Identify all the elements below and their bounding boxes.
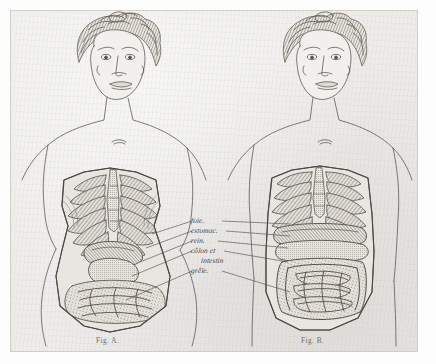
engraving-plate: foie. estomac. rein. côlon et intestin g… (0, 0, 436, 364)
label-rein: rein. (191, 236, 206, 245)
label-grele: grêle. (191, 266, 210, 275)
figure-a-cavity (56, 168, 170, 332)
figure-a-intestines (65, 280, 165, 323)
figure-b-cavity (266, 166, 374, 330)
label-estomac: estomac. (191, 226, 219, 235)
label-foie: foie. (191, 216, 205, 225)
figure-a-neck-shoulders (22, 97, 206, 180)
figure-b-caption: Fig. B. (301, 337, 324, 345)
label-colon: côlon et (191, 246, 216, 255)
figure-b-face (297, 30, 351, 100)
figure-a-face (91, 30, 145, 100)
figure-b (228, 11, 412, 346)
figure-a (22, 11, 206, 346)
anatomical-illustration (0, 0, 436, 364)
label-intestin: intestin (201, 256, 225, 265)
figure-a-caption: Fig. A. (96, 337, 119, 345)
